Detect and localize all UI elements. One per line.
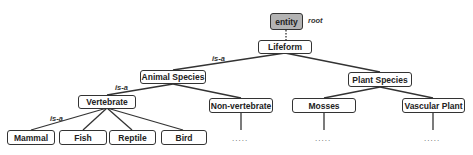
node-entity: entity xyxy=(270,13,303,30)
root-annotation: root xyxy=(308,16,323,25)
node-plant-species: Plant Species xyxy=(348,72,412,87)
ellipsis-non-vertebrate: ..... xyxy=(232,134,248,143)
edge-label-is-a-1: is-a xyxy=(212,54,225,63)
node-mosses: Mosses xyxy=(292,98,356,113)
node-vertebrate: Vertebrate xyxy=(78,95,136,109)
node-lifeform: Lifeform xyxy=(258,40,312,54)
edge-label-is-a-2: is-a xyxy=(115,83,128,92)
edge-label-is-a-3: is-a xyxy=(50,114,63,123)
node-non-vertebrate: Non-vertebrate xyxy=(209,98,273,113)
node-reptile: Reptile xyxy=(109,130,156,145)
node-fish: Fish xyxy=(59,130,107,145)
ellipsis-mosses: ..... xyxy=(315,134,331,143)
node-bird: Bird xyxy=(161,130,207,145)
node-vascular-plant: Vascular Plant xyxy=(402,98,465,113)
ellipsis-vascular-plant: ..... xyxy=(424,134,440,143)
node-mammal: Mammal xyxy=(7,130,55,145)
node-animal-species: Animal Species xyxy=(140,70,206,84)
